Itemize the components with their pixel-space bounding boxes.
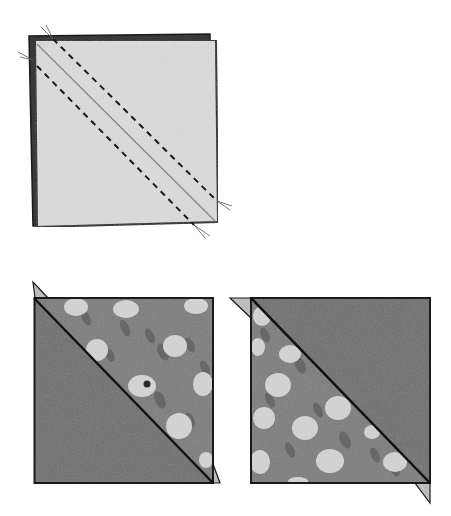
dog-ear-top-left (33, 282, 48, 298)
stitched-square-pair (18, 25, 232, 238)
dog-ear-bottom-right (213, 464, 220, 483)
hst-unit-right (230, 298, 430, 503)
dog-ear-top-left (230, 298, 251, 318)
quilt-diagram (0, 0, 451, 516)
hst-unit-left (33, 282, 220, 483)
dog-ear-bottom-right (415, 483, 430, 503)
